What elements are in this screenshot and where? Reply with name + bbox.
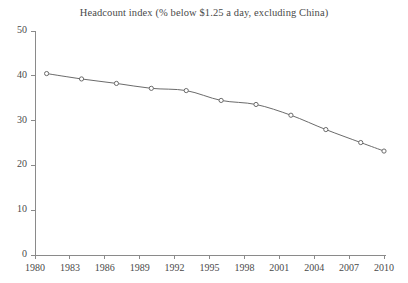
- y-tick-label: 50: [0, 24, 27, 35]
- y-tick-label: 20: [0, 158, 27, 169]
- data-point-marker: 1993: 36.7: [184, 88, 188, 92]
- data-point-marker: 1984: 39.3: [79, 77, 83, 81]
- series-line: [47, 74, 384, 152]
- x-tick-label: 2010: [364, 262, 404, 273]
- data-point-marker: 2002: 31.2: [289, 113, 293, 117]
- y-tick-label: 40: [0, 69, 27, 80]
- data-point-marker: 1996: 34.5: [219, 98, 223, 102]
- y-tick-label: 30: [0, 114, 27, 125]
- data-point-marker: 1981: 40.5: [45, 71, 49, 75]
- data-point-marker: 1990: 37.2: [149, 86, 153, 90]
- y-tick-label: 0: [0, 248, 27, 259]
- data-point-marker: 2010: 23.2: [382, 149, 386, 153]
- axes: [31, 31, 386, 259]
- line-chart-plot: 1981: 40.51984: 39.31987: 38.31990: 37.2…: [0, 0, 408, 283]
- data-point-marker: 2005: 28: [324, 127, 328, 131]
- chart-container: Headcount index (% below $1.25 a day, ex…: [0, 0, 408, 283]
- data-point-marker: 1999: 33.6: [254, 102, 258, 106]
- data-point-marker: 2008: 25.1: [359, 140, 363, 144]
- data-series: 1981: 40.51984: 39.31987: 38.31990: 37.2…: [45, 71, 387, 153]
- data-point-marker: 1987: 38.3: [114, 81, 118, 85]
- y-tick-label: 10: [0, 203, 27, 214]
